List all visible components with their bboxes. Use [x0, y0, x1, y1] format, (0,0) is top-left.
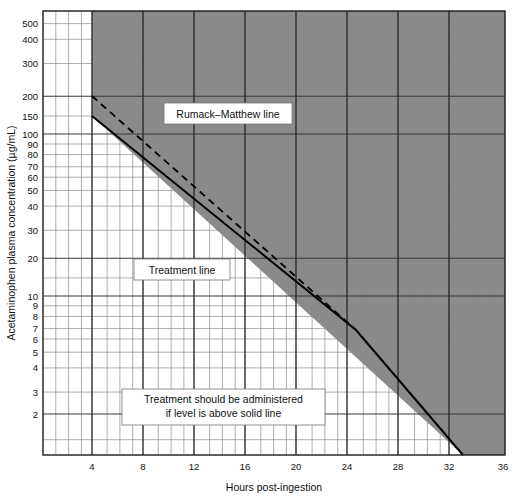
treatment-instruction-callout: Treatment should be administered if leve…	[122, 389, 325, 425]
x-axis-title: Hours post-ingestion	[226, 481, 322, 493]
y-tick-8: 8	[33, 311, 38, 322]
x-axis-tick-labels: 4 8 12 16 20 24 28 32 36	[89, 461, 508, 472]
nomogram-svg: 500 400 300 200 150 100 90 80 70 60 50 4…	[0, 0, 517, 502]
x-tick-36: 36	[498, 461, 509, 472]
x-tick-4: 4	[89, 461, 94, 472]
treatment-line-callout-label: Treatment line	[149, 264, 216, 276]
instruction-line-2: if level is above solid line	[166, 407, 282, 419]
y-tick-60: 60	[27, 172, 38, 183]
y-tick-80: 80	[27, 149, 38, 160]
x-tick-8: 8	[140, 461, 145, 472]
y-tick-40: 40	[27, 201, 38, 212]
x-tick-28: 28	[393, 461, 404, 472]
treatment-line-callout: Treatment line	[134, 259, 230, 280]
rumack-matthew-callout: Rumack–Matthew line	[164, 103, 292, 124]
y-tick-5: 5	[33, 347, 38, 358]
instruction-line-1: Treatment should be administered	[144, 393, 303, 405]
x-tick-24: 24	[342, 461, 353, 472]
y-tick-90: 90	[27, 139, 38, 150]
y-tick-150: 150	[22, 111, 38, 122]
y-tick-200: 200	[22, 91, 38, 102]
y-tick-6: 6	[33, 334, 38, 345]
y-tick-70: 70	[27, 161, 38, 172]
x-tick-12: 12	[189, 461, 200, 472]
x-tick-32: 32	[444, 461, 455, 472]
y-tick-4: 4	[33, 362, 38, 373]
x-tick-16: 16	[240, 461, 251, 472]
y-tick-50: 50	[27, 185, 38, 196]
rumack-matthew-nomogram: 500 400 300 200 150 100 90 80 70 60 50 4…	[0, 0, 517, 502]
y-tick-9: 9	[33, 300, 38, 311]
rumack-matthew-callout-label: Rumack–Matthew line	[176, 108, 279, 120]
x-tick-20: 20	[291, 461, 302, 472]
y-axis-title: Acetaminophen plasma concentration (µg/m…	[5, 126, 17, 341]
y-tick-2: 2	[33, 409, 38, 420]
y-tick-300: 300	[22, 58, 38, 69]
y-tick-20: 20	[27, 253, 38, 264]
y-axis-tick-labels: 500 400 300 200 150 100 90 80 70 60 50 4…	[22, 18, 38, 420]
y-tick-3: 3	[33, 387, 38, 398]
y-tick-500: 500	[22, 18, 38, 29]
y-tick-7: 7	[33, 323, 38, 334]
y-tick-400: 400	[22, 34, 38, 45]
y-tick-30: 30	[27, 225, 38, 236]
